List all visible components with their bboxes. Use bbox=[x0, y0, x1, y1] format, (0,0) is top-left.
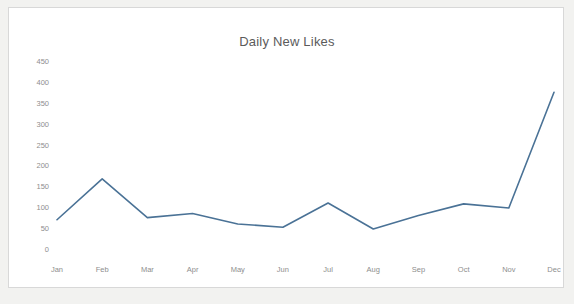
y-axis-tick-label: 450 bbox=[36, 57, 49, 66]
x-axis-tick-label: Aug bbox=[367, 265, 380, 274]
y-axis-tick-labels: 050100150200250300350400450 bbox=[36, 57, 49, 254]
x-axis-tick-label: Sep bbox=[412, 265, 425, 274]
x-axis-tick-label: May bbox=[231, 265, 245, 274]
x-axis-tick-label: Oct bbox=[458, 265, 471, 274]
x-axis-tick-label: Jun bbox=[277, 265, 289, 274]
y-axis-tick-label: 150 bbox=[36, 182, 49, 191]
chart-card: Daily New Likes 050100150200250300350400… bbox=[8, 7, 564, 288]
x-axis-tick-labels: JanFebMarAprMayJunJulAugSepOctNovDec bbox=[51, 265, 561, 274]
y-axis-tick-label: 50 bbox=[41, 224, 49, 233]
y-axis-tick-label: 350 bbox=[36, 99, 49, 108]
x-axis-tick-label: Jul bbox=[323, 265, 333, 274]
x-axis-tick-label: Apr bbox=[187, 265, 199, 274]
x-axis-tick-label: Jan bbox=[51, 265, 63, 274]
y-axis-tick-label: 200 bbox=[36, 161, 49, 170]
y-axis-tick-label: 300 bbox=[36, 120, 49, 129]
data-series-line bbox=[57, 92, 554, 229]
x-axis-tick-label: Feb bbox=[96, 265, 109, 274]
y-axis-tick-label: 100 bbox=[36, 203, 49, 212]
y-axis-tick-label: 0 bbox=[45, 245, 49, 254]
line-chart-plot: 050100150200250300350400450 JanFebMarApr… bbox=[9, 8, 565, 289]
x-axis-tick-label: Nov bbox=[502, 265, 516, 274]
x-axis-tick-label: Mar bbox=[141, 265, 154, 274]
y-axis-tick-label: 400 bbox=[36, 78, 49, 87]
x-axis-tick-label: Dec bbox=[547, 265, 561, 274]
y-axis-tick-label: 250 bbox=[36, 141, 49, 150]
